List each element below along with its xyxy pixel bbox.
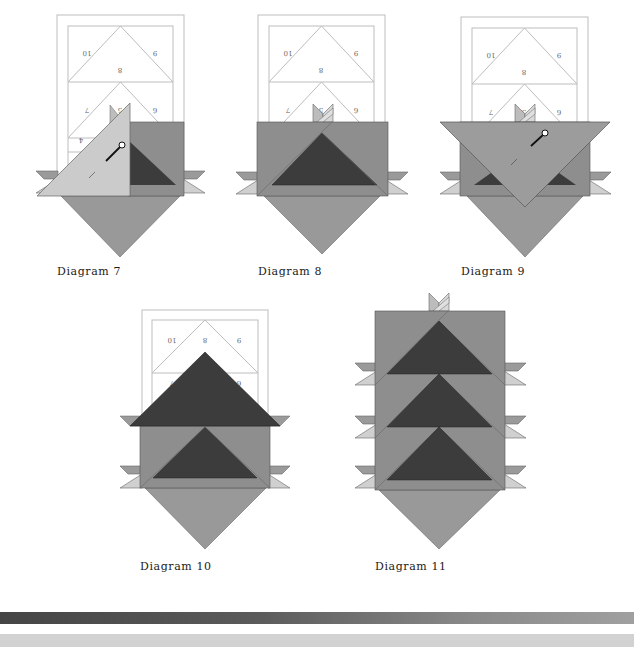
pattern-number-10: 10 xyxy=(487,51,496,59)
side-flap-right xyxy=(386,172,408,194)
footer-light-band xyxy=(0,634,634,647)
side-flap-left xyxy=(440,172,462,194)
caption-diagram-7: Diagram 7 xyxy=(57,265,121,278)
side-flap-right xyxy=(268,466,290,488)
pattern-number-7: 7 xyxy=(286,106,290,114)
pattern-number-8: 8 xyxy=(118,66,122,74)
side-flap-left-2 xyxy=(355,416,377,438)
side-flap-right xyxy=(589,172,611,194)
diamond-piece xyxy=(61,196,180,257)
diagram-7: 10 9 8 7 5 6 4 xyxy=(36,15,205,257)
pattern-number-6: 6 xyxy=(152,106,157,114)
side-flap-right-2 xyxy=(504,416,526,438)
pattern-number-8: 8 xyxy=(522,68,526,76)
pattern-number-9: 9 xyxy=(153,49,157,57)
pattern-number-9: 9 xyxy=(354,49,358,57)
diagram-9: 10 9 8 7 5 6 xyxy=(440,17,611,257)
diagram-8: 10 9 8 7 5 6 xyxy=(236,15,408,254)
side-flap-left-1 xyxy=(355,363,377,385)
caption-diagram-10: Diagram 10 xyxy=(140,560,212,573)
side-flap-left-3 xyxy=(355,466,377,488)
pattern-number-9: 9 xyxy=(237,336,241,344)
top-flap xyxy=(429,293,449,311)
pattern-number-8: 8 xyxy=(319,66,323,74)
pattern-number-7: 7 xyxy=(85,106,89,114)
diagram-sheet: 10 9 8 7 5 6 4 10 9 8 7 5 6 xyxy=(0,0,634,610)
pattern-number-10: 10 xyxy=(284,49,293,57)
pattern-number-4: 4 xyxy=(78,136,83,144)
pattern-number-7: 7 xyxy=(489,108,493,116)
side-flap-right xyxy=(183,171,205,193)
caption-diagram-11: Diagram 11 xyxy=(375,560,447,573)
pattern-number-8: 8 xyxy=(203,336,207,344)
side-flap-left xyxy=(236,172,258,194)
diagram-10: 10 8 9 7 6 xyxy=(120,310,290,549)
diamond-piece xyxy=(379,490,500,549)
pattern-number-10: 10 xyxy=(83,49,92,57)
diamond-piece xyxy=(145,488,266,549)
caption-diagram-9: Diagram 9 xyxy=(461,265,525,278)
caption-diagram-8: Diagram 8 xyxy=(258,265,322,278)
side-flap-left xyxy=(120,466,142,488)
side-flap-right-1 xyxy=(504,363,526,385)
pattern-number-6: 6 xyxy=(353,106,358,114)
footer-gradient-bar xyxy=(0,612,634,624)
diagram-11 xyxy=(355,293,526,549)
pattern-number-9: 9 xyxy=(557,51,561,59)
diamond-piece xyxy=(264,196,380,254)
pattern-number-10: 10 xyxy=(168,336,177,344)
side-flap-right-3 xyxy=(504,466,526,488)
pattern-number-6: 6 xyxy=(556,108,561,116)
